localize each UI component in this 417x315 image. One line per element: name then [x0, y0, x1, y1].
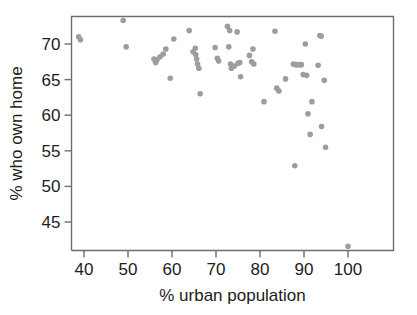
- data-point: [197, 91, 203, 97]
- data-point: [167, 75, 173, 81]
- x-tick-label: 50: [119, 260, 138, 279]
- x-tick-label: 80: [251, 260, 270, 279]
- data-point: [250, 46, 256, 52]
- data-point: [186, 28, 192, 34]
- x-axis-title: % urban population: [159, 286, 306, 305]
- data-point: [194, 56, 200, 62]
- y-axis-title: % who own home: [7, 66, 26, 200]
- data-point: [315, 63, 321, 69]
- data-point: [227, 28, 233, 34]
- data-point: [304, 73, 310, 79]
- data-point: [276, 88, 282, 94]
- plot-svg: 405060708090100 455055606570 % urban pop…: [0, 0, 417, 315]
- data-point: [163, 46, 169, 52]
- data-point: [303, 41, 309, 47]
- data-point: [160, 51, 166, 57]
- data-point: [307, 132, 313, 138]
- data-point: [171, 36, 177, 42]
- data-point: [238, 74, 244, 80]
- x-tick-label: 40: [75, 260, 94, 279]
- frame-border: [72, 17, 394, 251]
- data-point: [216, 58, 222, 64]
- data-point: [193, 45, 199, 51]
- data-point: [345, 243, 351, 249]
- data-point: [318, 33, 324, 39]
- x-tick-label: 70: [207, 260, 226, 279]
- data-point: [123, 44, 129, 50]
- data-point: [226, 44, 232, 50]
- data-point: [234, 29, 240, 35]
- x-tick-label: 100: [334, 260, 362, 279]
- y-tick-label: 60: [42, 106, 61, 125]
- y-tick-label: 70: [42, 35, 61, 54]
- data-point: [251, 61, 257, 67]
- x-tick-label: 90: [295, 260, 314, 279]
- x-axis-ticks: 405060708090100: [75, 251, 363, 279]
- y-tick-label: 55: [42, 142, 61, 161]
- data-point: [120, 18, 126, 24]
- data-point: [319, 124, 325, 130]
- y-tick-label: 50: [42, 177, 61, 196]
- data-point: [292, 163, 298, 169]
- data-point: [78, 37, 84, 43]
- y-tick-label: 65: [42, 71, 61, 90]
- data-point: [323, 144, 329, 150]
- data-point: [196, 65, 202, 71]
- y-tick-label: 45: [42, 213, 61, 232]
- data-points-layer: [76, 18, 351, 249]
- data-point: [272, 28, 278, 34]
- y-axis-ticks: 455055606570: [42, 35, 72, 232]
- data-point: [212, 45, 218, 51]
- plot-frame: [72, 17, 394, 251]
- data-point: [321, 78, 327, 84]
- x-tick-label: 60: [163, 260, 182, 279]
- data-point: [247, 53, 253, 59]
- data-point: [299, 62, 305, 68]
- scatter-plot-figure: 405060708090100 455055606570 % urban pop…: [0, 0, 417, 315]
- data-point: [283, 76, 289, 82]
- data-point: [309, 99, 315, 105]
- data-point: [305, 111, 311, 117]
- data-point: [237, 60, 243, 66]
- data-point: [261, 99, 267, 105]
